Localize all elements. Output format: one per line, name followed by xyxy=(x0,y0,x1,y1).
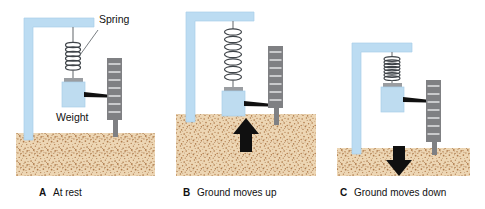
weight-cap xyxy=(224,87,243,91)
weight-label: Weight xyxy=(56,111,89,123)
panel-c-weight xyxy=(381,83,404,112)
weight-block xyxy=(62,82,85,107)
spring-label: Spring xyxy=(99,13,130,25)
drum-stem xyxy=(274,108,279,125)
panel-c-caption: C Ground moves down xyxy=(340,187,446,198)
panel-a-letter: A xyxy=(39,187,46,198)
panel-b-caption-text: Ground moves up xyxy=(197,187,277,198)
weight-cap xyxy=(64,78,83,82)
spring-coil xyxy=(66,42,81,70)
weight-block xyxy=(381,87,404,112)
panel-a-caption-text: At rest xyxy=(53,187,82,198)
weight-block xyxy=(222,91,245,116)
drum-stem xyxy=(113,120,118,137)
panel-a-caption: A At rest xyxy=(39,187,82,198)
seismograph-diagram: Spring Weight A At rest xyxy=(0,0,485,209)
panel-b-letter: B xyxy=(183,187,190,198)
panel-a-weight xyxy=(62,78,85,107)
drum-stem xyxy=(432,142,437,155)
weight-cap xyxy=(383,83,402,87)
panel-c-caption-text: Ground moves down xyxy=(354,187,446,198)
figure-canvas: Spring Weight A At rest xyxy=(0,0,485,209)
panel-a-ground xyxy=(16,133,155,176)
panel-b-caption: B Ground moves up xyxy=(183,187,277,198)
panel-b-weight xyxy=(222,87,245,116)
ground-block xyxy=(16,133,155,176)
panel-c-letter: C xyxy=(340,187,347,198)
